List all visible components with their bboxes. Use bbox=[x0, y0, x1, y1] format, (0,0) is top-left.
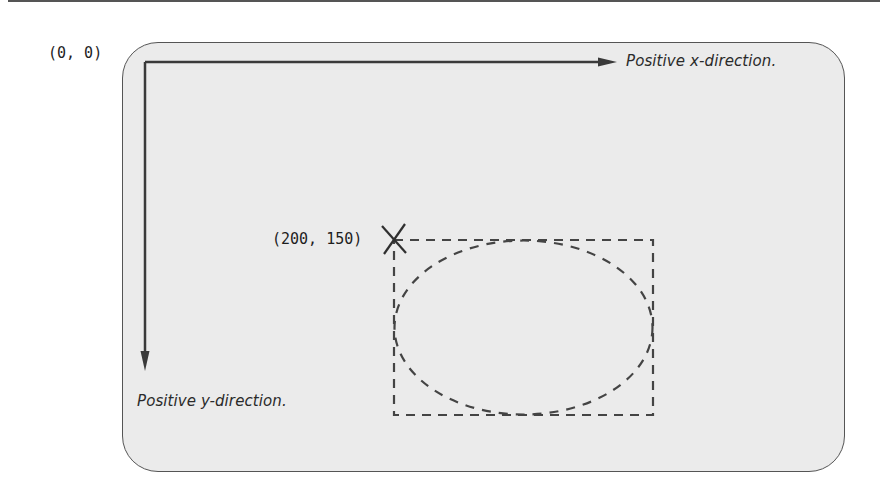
x-direction-label: Positive x-direction. bbox=[626, 52, 776, 70]
point-label: (200, 150) bbox=[272, 230, 362, 248]
x-axis bbox=[145, 58, 617, 67]
origin-label: (0, 0) bbox=[48, 44, 102, 62]
y-axis bbox=[141, 62, 150, 371]
x-axis-arrowhead-icon bbox=[598, 58, 617, 67]
y-direction-label: Positive y-direction. bbox=[137, 392, 287, 410]
y-axis-arrowhead-icon bbox=[141, 351, 150, 371]
diagram-graphics bbox=[0, 0, 880, 503]
inscribed-ellipse bbox=[395, 241, 653, 415]
